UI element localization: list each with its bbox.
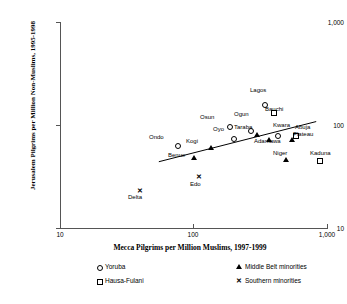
data-point-label: Delta [128,194,142,201]
legend-item-middle-belt-minorities[interactable]: Middle Belt minorities [235,262,307,271]
legend-item-hausa-fulani[interactable]: Hausa-Fulani [95,276,144,285]
legend-marker-icon: ✕ [235,277,242,284]
legend-label: Hausa-Fulani [105,276,144,285]
data-point-label: Oyo [213,126,224,133]
data-point-label: Ogun [234,111,249,118]
legend-marker-icon [235,263,242,270]
data-point-marker [208,145,214,150]
legend-item-southern-minorities[interactable]: ✕Southern minorities [235,276,301,285]
legend-marker-icon [95,277,102,284]
data-point-label: Niger [273,150,287,157]
data-point-marker [317,158,323,164]
data-point-label: Adamawa [254,138,281,145]
legend-label: Southern minorities [245,276,301,285]
data-point-label: Taraba [234,124,252,131]
data-point-label: Edo [190,181,201,188]
chart-legend: YorubaMiddle Belt minoritiesHausa-Fulani… [95,262,325,290]
x-axis-title: Mecca Pilgrims per Million Muslims, 1997… [40,243,340,252]
legend-label: Middle Belt minorities [245,262,307,271]
data-point-label: Kaduna [310,150,331,157]
data-point-marker [175,143,181,149]
data-point-label: Osun [200,114,214,121]
data-point-label: Ondo [149,134,164,141]
data-point-label: Abuja [295,124,310,131]
data-point-label: Bauchi [265,106,283,113]
data-point-label: Kwara [273,122,290,129]
data-point-marker [191,155,197,160]
data-point-label: Plateau [293,131,313,138]
data-point-marker [283,157,289,162]
data-point-label: Kogi [186,138,198,145]
legend-item-yoruba[interactable]: Yoruba [95,262,125,271]
legend-row: Hausa-Fulani✕Southern minorities [95,276,325,290]
data-point-marker [254,132,260,137]
data-point-label: Benue [168,152,185,159]
data-point-label: Lagos [250,87,266,94]
legend-row: YorubaMiddle Belt minorities [95,262,325,276]
legend-label: Yoruba [105,262,125,271]
legend-marker-icon [95,263,102,270]
